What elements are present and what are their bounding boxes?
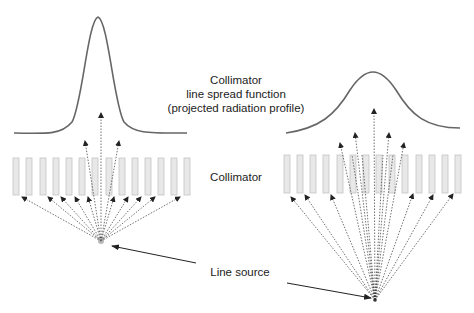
right-line-source (373, 298, 377, 302)
right-lsf-curve (286, 72, 460, 133)
lsf-label-line2: line spread function (166, 87, 306, 101)
line-source-label: Line source (200, 265, 280, 279)
pointer-arrow-left (112, 246, 196, 263)
left-collimator (13, 158, 190, 195)
left-line-source (98, 238, 104, 244)
left-lsf-curve (14, 17, 187, 133)
pointer-arrow-right (287, 283, 371, 298)
lsf-label-line3: (projected radiation profile) (166, 101, 306, 115)
right-collimator (284, 155, 461, 193)
collimator-label: Collimator (196, 170, 276, 184)
lsf-label: Collimator line spread function (project… (166, 73, 306, 115)
lsf-label-line1: Collimator (166, 73, 306, 87)
right-ray-arrows (291, 109, 453, 300)
